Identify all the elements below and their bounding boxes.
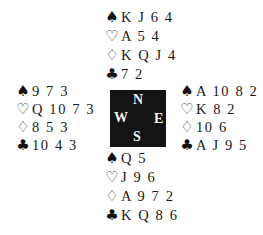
south-hearts-cards: J 9 6 [121, 168, 156, 187]
compass-north-label: N [133, 93, 143, 107]
club-icon: ♣ [180, 136, 194, 154]
heart-icon: ♡ [105, 168, 119, 187]
heart-icon: ♡ [105, 27, 119, 46]
heart-icon: ♡ [16, 100, 30, 118]
south-clubs-cards: K Q 8 6 [121, 206, 179, 225]
south-hearts: ♡J 9 6 [105, 168, 179, 187]
south-diamonds: ♢A 9 7 2 [105, 187, 179, 206]
spade-icon: ♠ [16, 82, 30, 100]
west-diamonds-cards: 8 5 3 [32, 118, 69, 136]
east-diamonds: ♢10 6 [180, 118, 258, 136]
east-diamonds-cards: 10 6 [196, 118, 228, 136]
north-spades-cards: K J 6 4 [121, 8, 174, 27]
east-hearts: ♡K 8 2 [180, 100, 258, 118]
west-diamonds: ♢8 5 3 [16, 118, 95, 136]
north-clubs: ♣7 2 [105, 65, 177, 84]
north-diamonds-cards: K Q J 4 [121, 46, 177, 65]
club-icon: ♣ [16, 136, 30, 154]
south-diamonds-cards: A 9 7 2 [121, 187, 175, 206]
north-hand: ♠K J 6 4 ♡A 5 4 ♢K Q J 4 ♣7 2 [105, 8, 177, 84]
east-clubs: ♣A J 9 5 [180, 136, 258, 154]
south-spades-cards: Q 5 [121, 149, 147, 168]
west-spades: ♠9 7 3 [16, 82, 95, 100]
east-spades-cards: A 10 8 2 [196, 82, 258, 100]
compass-east-label: E [154, 112, 163, 126]
north-spades: ♠K J 6 4 [105, 8, 177, 27]
diamond-icon: ♢ [105, 187, 119, 206]
club-icon: ♣ [105, 206, 119, 225]
diamond-icon: ♢ [16, 118, 30, 136]
south-clubs: ♣K Q 8 6 [105, 206, 179, 225]
east-clubs-cards: A J 9 5 [196, 136, 248, 154]
compass-west-label: W [114, 111, 128, 125]
west-spades-cards: 9 7 3 [32, 82, 69, 100]
west-hearts-cards: Q 10 7 3 [32, 100, 95, 118]
west-clubs-cards: 10 4 3 [32, 136, 78, 154]
diamond-icon: ♢ [180, 118, 194, 136]
east-spades: ♠A 10 8 2 [180, 82, 258, 100]
west-clubs: ♣10 4 3 [16, 136, 95, 154]
north-hearts: ♡A 5 4 [105, 27, 177, 46]
club-icon: ♣ [105, 65, 119, 84]
diamond-icon: ♢ [105, 46, 119, 65]
north-clubs-cards: 7 2 [121, 65, 144, 84]
north-hearts-cards: A 5 4 [121, 27, 160, 46]
east-hearts-cards: K 8 2 [196, 100, 236, 118]
compass-box: N W E S [110, 90, 166, 147]
west-hand: ♠9 7 3 ♡Q 10 7 3 ♢8 5 3 ♣10 4 3 [16, 82, 95, 154]
north-diamonds: ♢K Q J 4 [105, 46, 177, 65]
spade-icon: ♠ [180, 82, 194, 100]
heart-icon: ♡ [180, 100, 194, 118]
east-hand: ♠A 10 8 2 ♡K 8 2 ♢10 6 ♣A J 9 5 [180, 82, 258, 154]
compass-south-label: S [133, 130, 141, 144]
west-hearts: ♡Q 10 7 3 [16, 100, 95, 118]
spade-icon: ♠ [105, 8, 119, 27]
south-hand: ♠Q 5 ♡J 9 6 ♢A 9 7 2 ♣K Q 8 6 [105, 149, 179, 225]
south-spades: ♠Q 5 [105, 149, 179, 168]
spade-icon: ♠ [105, 149, 119, 168]
